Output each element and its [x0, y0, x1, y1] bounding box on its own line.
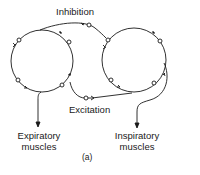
inhibition-label: Inhibition [56, 6, 94, 17]
inspiratory-output-line [137, 63, 167, 127]
left-ring-synapses [16, 38, 71, 87]
inspiratory-muscles-label: Inspiratory muscles [114, 130, 160, 152]
expiratory-line1: Expiratory [17, 130, 61, 141]
expiratory-muscles-label: Expiratory muscles [17, 130, 61, 152]
expiratory-output-line [38, 92, 41, 126]
inhibition-synapse [87, 23, 91, 27]
left-ring-arrowheads [13, 31, 71, 88]
inspiratory-arrow-icon [135, 123, 139, 128]
right-ring-synapses [106, 38, 162, 85]
figure-caption: (a) [82, 152, 92, 163]
excitation-label: Excitation [69, 104, 110, 115]
expiratory-arrow-icon [36, 122, 40, 127]
inhibition-connection [40, 23, 106, 38]
excitation-synapse [84, 96, 88, 100]
expiratory-line2: muscles [17, 141, 61, 152]
right-neuron-ring [102, 28, 166, 92]
inspiratory-line2: muscles [114, 141, 160, 152]
inspiratory-line1: Inspiratory [114, 130, 160, 141]
